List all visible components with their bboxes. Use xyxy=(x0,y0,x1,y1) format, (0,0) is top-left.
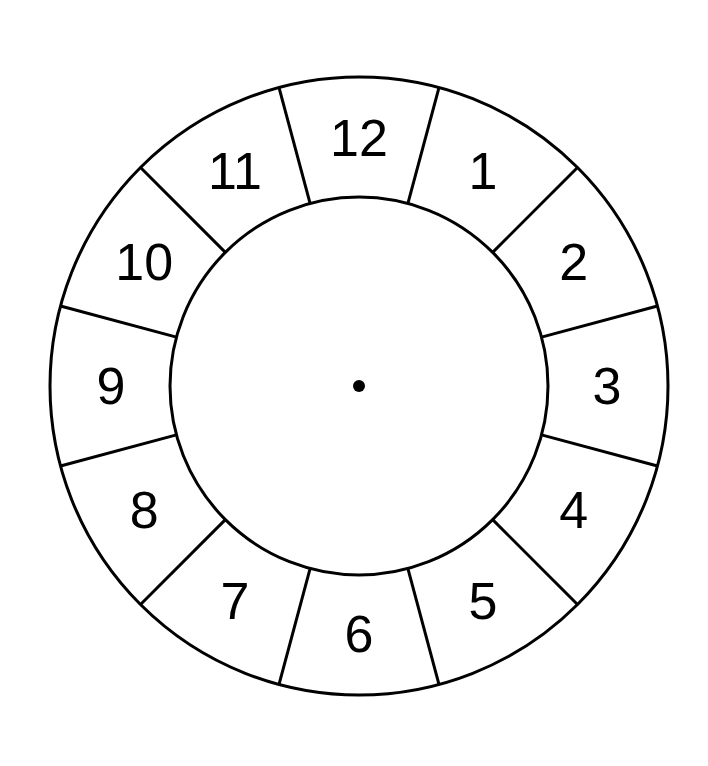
hour-numeral-9: 9 xyxy=(97,357,126,415)
segment-divider-4 xyxy=(542,435,658,466)
hour-numeral-11: 11 xyxy=(208,142,262,200)
center-dot-icon xyxy=(353,380,365,392)
hour-numeral-4: 4 xyxy=(559,481,588,539)
hour-numeral-1: 1 xyxy=(469,142,498,200)
hour-numeral-10: 10 xyxy=(115,233,173,291)
hour-numeral-5: 5 xyxy=(469,572,498,630)
segment-divider-12 xyxy=(279,88,310,204)
clock-face-figure: 121234567891011 xyxy=(0,0,708,766)
segment-divider-9 xyxy=(61,435,177,466)
segment-divider-3 xyxy=(542,306,658,337)
hour-numeral-8: 8 xyxy=(130,481,159,539)
hour-numeral-6: 6 xyxy=(345,605,374,663)
segment-divider-1 xyxy=(408,88,439,204)
segment-divider-6 xyxy=(408,569,439,685)
segment-divider-10 xyxy=(61,306,177,337)
hour-numeral-2: 2 xyxy=(559,233,588,291)
segment-divider-7 xyxy=(279,569,310,685)
hour-numeral-7: 7 xyxy=(221,572,250,630)
hour-numeral-12: 12 xyxy=(330,109,388,167)
clock-face-svg: 121234567891011 xyxy=(0,0,708,766)
hour-numeral-3: 3 xyxy=(593,357,622,415)
